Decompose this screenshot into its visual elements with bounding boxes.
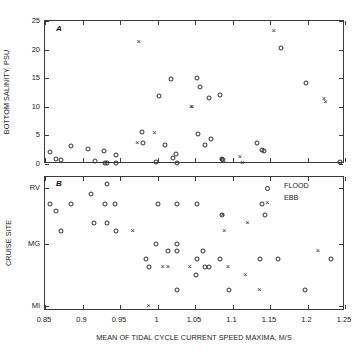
y-tick-label: RV [12,182,40,191]
y-tick-mark [339,135,343,136]
x-tick-mark [45,177,46,181]
flood-point-marker [104,221,109,226]
ebb-point-marker: × [137,38,141,46]
flood-point-marker [103,201,108,206]
ebb-marker-icon: × [265,198,269,207]
flood-point-marker [154,242,159,247]
x-tick-mark [83,158,84,162]
flood-point-marker [48,149,53,154]
panel-a-letter: A [56,24,62,33]
figure-container: ××××××××××× A BOTTOM SALINITY, PSU 05101… [0,0,358,355]
ebb-point-marker: × [272,27,276,35]
flood-point-marker [194,76,199,81]
flood-point-marker [88,192,93,197]
panel-a-y-axis-title: BOTTOM SALINITY, PSU [2,50,11,134]
flood-point-marker [175,161,180,166]
ebb-point-marker: × [257,286,261,294]
x-tick-mark [270,158,271,162]
y-tick-label: 10 [12,101,40,110]
flood-point-marker [198,85,203,90]
x-tick-label: 1.05 [187,315,202,324]
ebb-point-marker: × [188,264,192,272]
flood-point-marker [255,141,260,146]
ebb-point-marker: × [316,248,320,256]
y-tick-label: 15 [12,73,40,82]
panel-b-x-axis-title: MEAN OF TIDAL CYCLE CURRENT SPEED MAXIMA… [96,333,292,342]
x-tick-mark [233,21,234,25]
flood-point-marker [207,265,212,270]
y-tick-mark [45,50,49,51]
y-tick-mark [45,21,49,22]
x-tick-mark [195,305,196,309]
x-tick-mark [308,305,309,309]
x-tick-mark [233,305,234,309]
x-tick-mark [345,177,346,181]
x-tick-label: 1 [154,315,158,324]
x-tick-label: 1.1 [226,315,236,324]
flood-point-marker [157,93,162,98]
legend-label-flood: FLOOD [284,180,309,192]
x-tick-label: 0.95 [112,315,127,324]
y-tick-mark [339,50,343,51]
x-tick-label: 1.2 [301,315,311,324]
flood-point-marker [114,160,119,165]
x-tick-label: 0.85 [37,315,52,324]
ebb-point-marker: × [221,211,225,219]
flood-point-marker [91,221,96,226]
legend-entry-flood: FLOOD [262,180,340,192]
x-tick-label: 1.15 [262,315,277,324]
y-tick-mark [339,306,343,307]
y-tick-mark [45,135,49,136]
ebb-point-marker: × [152,129,156,137]
x-tick-mark [45,158,46,162]
flood-point-marker [175,242,180,247]
y-tick-label: 25 [12,16,40,25]
y-tick-mark [339,21,343,22]
flood-point-marker [104,181,109,186]
y-tick-mark [45,78,49,79]
panel-a-scatter-layer: ××××××××××× [45,21,343,162]
y-tick-mark [45,164,49,165]
x-tick-mark [345,305,346,309]
flood-point-marker [195,257,200,262]
flood-point-marker [171,156,176,161]
ebb-point-marker: × [240,159,244,167]
x-tick-label: 0.9 [76,315,86,324]
panel-b-letter: B [56,179,62,188]
flood-point-marker [140,140,145,145]
flood-point-marker [262,213,267,218]
y-tick-label: MG [12,239,40,248]
y-tick-mark [339,244,343,245]
x-tick-mark [195,158,196,162]
x-tick-mark [83,305,84,309]
flood-point-marker [175,249,180,254]
ebb-point-marker: × [146,302,150,310]
y-tick-mark [45,244,49,245]
x-tick-mark [195,21,196,25]
x-tick-mark [195,177,196,181]
flood-point-marker [208,137,213,142]
flood-point-marker [58,229,63,234]
flood-point-marker [104,160,109,165]
flood-point-marker [113,152,118,157]
x-tick-label: 1.25 [337,315,352,324]
x-tick-mark [270,21,271,25]
y-tick-mark [339,164,343,165]
ebb-point-marker: × [323,98,327,106]
flood-point-marker [175,287,180,292]
flood-point-marker [139,129,144,134]
flood-point-marker [173,151,178,156]
ebb-point-marker: × [161,264,165,272]
flood-point-marker [58,157,63,162]
flood-point-marker [155,201,160,206]
ebb-point-marker: × [219,156,223,164]
y-tick-mark [339,107,343,108]
flood-point-marker [193,273,198,278]
ebb-point-marker: × [226,264,230,272]
flood-point-marker [262,148,267,153]
flood-point-marker [194,201,199,206]
legend-entry-ebb: × EBB [262,192,340,204]
y-tick-mark [45,306,49,307]
y-tick-label: 5 [12,130,40,139]
ebb-point-marker: × [131,228,135,236]
